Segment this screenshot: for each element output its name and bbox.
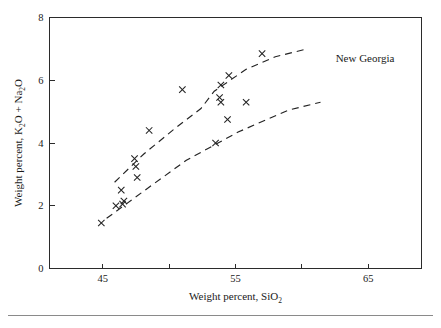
x-tick-label: 65 xyxy=(363,273,374,284)
lower-alkaline-boundary xyxy=(107,102,321,218)
data-point-marker xyxy=(243,99,249,105)
upper-alkaline-boundary xyxy=(115,49,308,182)
y-tick-label: 4 xyxy=(38,138,44,149)
y-tick-label: 6 xyxy=(38,75,43,86)
y-tick-label: 2 xyxy=(38,200,43,211)
y-axis-title-mid: O + Na xyxy=(12,91,24,124)
data-point-marker xyxy=(216,94,222,100)
figure-root: 45556502468Weight percent, SiO2Weight pe… xyxy=(0,0,441,328)
data-point-marker xyxy=(113,203,119,209)
data-point-marker xyxy=(146,127,152,133)
data-point-marker xyxy=(133,163,139,169)
y-tick-label: 8 xyxy=(38,12,43,23)
y-tick-label: 0 xyxy=(38,263,43,274)
data-point-marker xyxy=(259,50,265,56)
scatter-plot: 45556502468Weight percent, SiO2Weight pe… xyxy=(0,0,441,328)
data-point-marker xyxy=(218,99,224,105)
x-tick-label: 55 xyxy=(230,273,241,284)
data-point-marker xyxy=(98,220,104,226)
y-axis-title: Weight percent, K2O + Na2O xyxy=(12,79,27,207)
x-axis-title: Weight percent, SiO2 xyxy=(189,290,282,305)
x-axis-title-subscript: 2 xyxy=(278,296,282,305)
data-points-layer xyxy=(98,50,265,226)
labels-layer: 45556502468Weight percent, SiO2Weight pe… xyxy=(8,12,433,315)
x-tick-label: 45 xyxy=(97,273,108,284)
data-point-marker xyxy=(179,86,185,92)
data-point-marker xyxy=(224,116,230,122)
data-point-marker xyxy=(134,174,140,180)
boundary-curves-layer xyxy=(107,49,321,218)
region-annotation: New Georgia xyxy=(336,52,395,64)
data-point-marker xyxy=(118,187,124,193)
data-point-marker xyxy=(226,72,232,78)
y-axis-title-post: O xyxy=(12,79,24,87)
data-point-marker xyxy=(131,155,137,161)
